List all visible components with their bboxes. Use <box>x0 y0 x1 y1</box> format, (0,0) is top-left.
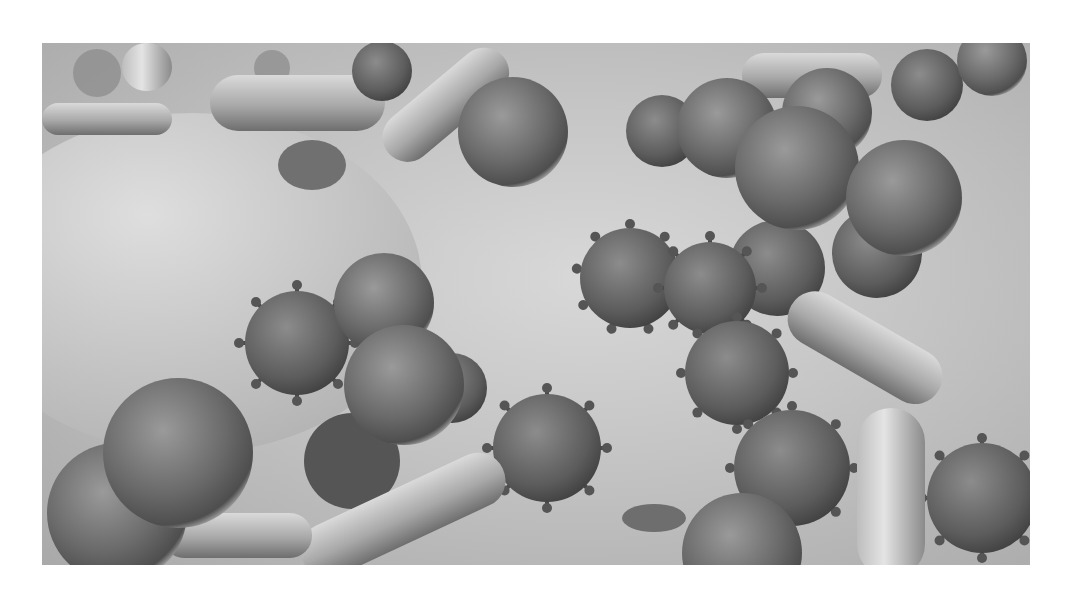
bacillus-rod <box>42 103 172 135</box>
bacillus-rod <box>857 408 925 565</box>
coccus-sphere <box>846 140 962 256</box>
coccus-sphere <box>957 43 1027 96</box>
virus-particle <box>352 43 412 101</box>
coccus-sphere <box>103 378 253 528</box>
microbe-illustration <box>42 43 1030 565</box>
bacillus-rod <box>778 281 953 414</box>
microbe-render-image: Grayscale 3D render of microorganisms — … <box>42 43 1030 565</box>
bacillus-rod <box>122 43 172 91</box>
coccus-sphere <box>458 77 568 187</box>
virus-particle <box>891 49 963 121</box>
virus-particle <box>917 433 1030 563</box>
surface-lump <box>278 140 346 190</box>
coccus-sphere <box>735 106 859 230</box>
surface-lump <box>622 504 686 532</box>
coccus-sphere <box>344 325 464 445</box>
